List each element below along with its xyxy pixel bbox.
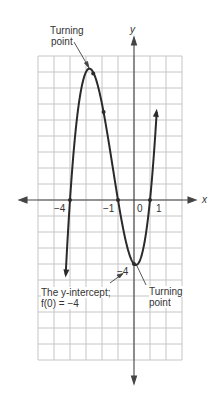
turning-point-bottom-label-1: Turning <box>149 286 183 297</box>
y-axis <box>132 37 137 384</box>
tick-label-neg1: −1 <box>103 203 114 214</box>
y-axis-up-arrow-icon <box>132 37 137 45</box>
intercept-value-label: −4 <box>117 266 128 277</box>
x-axis-left-arrow-icon <box>19 197 27 203</box>
tick-label-neg4: −4 <box>54 203 65 214</box>
cubic-graph <box>0 0 220 393</box>
tick-label-1: 1 <box>156 203 162 214</box>
intercept-label-2: f(0) = −4 <box>41 298 79 309</box>
x-axis-right-arrow-icon <box>188 197 196 203</box>
y-axis-label: y <box>130 24 135 35</box>
annotation-pointers <box>74 42 146 285</box>
turning-point-top-label-2: point <box>51 36 73 47</box>
y-axis-down-arrow-icon <box>132 376 137 384</box>
marked-points <box>68 72 152 266</box>
x-axis-label: x <box>202 194 207 205</box>
turning-point-bottom-label-2: point <box>149 297 171 308</box>
turning-point-top-label-1: Turning <box>50 25 84 36</box>
intercept-label-1: The y-intercept; <box>41 287 110 298</box>
tick-label-0: 0 <box>137 203 143 214</box>
function-curve <box>66 69 157 275</box>
curve-end-arrows <box>63 109 158 278</box>
